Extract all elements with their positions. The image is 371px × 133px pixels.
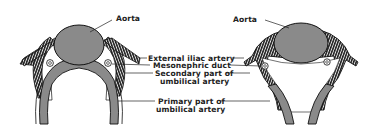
mesonephric-duct-leader-right [230,65,261,66]
right-mesonephric-duct-right-icon [324,59,330,65]
primary-umbilical-label-line2: umbilical artery [156,105,225,114]
right-aorta-label: Aorta [233,15,257,24]
left-aorta-leader [90,20,112,32]
right-aorta [274,23,328,63]
right-figure: Aorta [233,15,358,124]
right-aorta-leader [265,20,289,28]
left-aorta [54,25,104,65]
left-figure: Aorta [20,14,140,124]
secondary-umbilical-label-line2: umbilical artery [160,77,229,86]
left-mesonephric-duct-right-icon [105,60,112,67]
left-aorta-label: Aorta [116,14,140,23]
right-mesonephric-duct-left-icon [262,63,268,69]
left-mesonephric-duct-left-icon [47,60,54,67]
umbilical-artery-diagram: Aorta Aorta External iliac artery [0,0,371,133]
